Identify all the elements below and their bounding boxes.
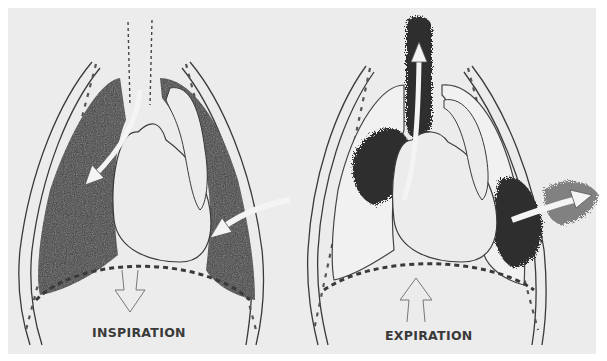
diaphragm-up-arrow-icon [400, 278, 432, 322]
expiration-label: EXPIRATION [385, 328, 473, 343]
inspiration-label: INSPIRATION [92, 325, 186, 340]
inspiration-figure [0, 0, 300, 361]
diaphragm-down-arrow-icon [115, 270, 145, 312]
expiration-figure [294, 0, 607, 361]
expiration-diagram [294, 0, 607, 361]
inspiration-diagram [0, 0, 300, 361]
